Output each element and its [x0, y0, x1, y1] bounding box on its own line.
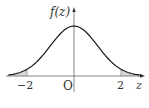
origin-label: O — [63, 79, 73, 93]
y-axis-arrow-icon — [72, 7, 75, 12]
normal-distribution-chart: f(z) O z −2 2 — [0, 0, 149, 108]
x-axis-label: z — [135, 79, 142, 92]
density-curve — [8, 26, 142, 75]
tick-label-neg2: −2 — [17, 79, 33, 92]
tick-label-pos2: 2 — [117, 79, 124, 92]
y-axis-label: f(z) — [49, 5, 70, 19]
